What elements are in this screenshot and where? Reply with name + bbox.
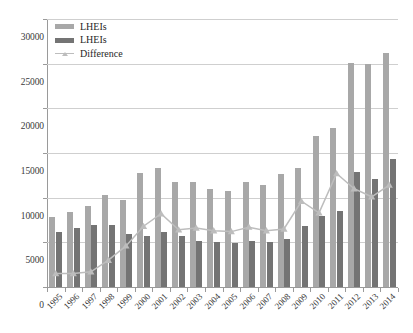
x-tick xyxy=(363,288,364,292)
legend-item-label: Difference xyxy=(80,49,123,59)
y-axis-tick-label: 20000 xyxy=(0,123,44,133)
x-tick xyxy=(240,288,241,292)
bar xyxy=(214,242,220,287)
bar xyxy=(383,53,389,287)
legend-item[interactable]: LHEIs xyxy=(55,35,123,46)
bar xyxy=(243,182,249,287)
x-tick xyxy=(398,288,399,292)
x-tick xyxy=(380,288,381,292)
x-tick xyxy=(187,288,188,292)
x-tick xyxy=(65,288,66,292)
bar xyxy=(196,241,202,287)
bar xyxy=(260,185,266,287)
x-tick xyxy=(310,288,311,292)
bar xyxy=(155,168,161,287)
x-tick xyxy=(258,288,259,292)
bar xyxy=(267,242,273,287)
x-tick xyxy=(152,288,153,292)
legend-color-swatch xyxy=(55,38,74,43)
x-tick xyxy=(293,288,294,292)
y-axis-tick-label: 25000 xyxy=(0,78,44,88)
legend-item[interactable]: LHEIs xyxy=(55,21,123,32)
bar xyxy=(232,243,238,287)
bar xyxy=(365,64,371,287)
bar xyxy=(137,173,143,287)
bar xyxy=(179,236,185,287)
bar xyxy=(249,241,255,287)
bar xyxy=(319,216,325,287)
bar xyxy=(67,212,73,287)
x-tick xyxy=(345,288,346,292)
legend-item[interactable]: Difference xyxy=(55,48,123,59)
y-axis-tick-label: 30000 xyxy=(0,33,44,43)
bar xyxy=(348,63,354,287)
x-tick xyxy=(275,288,276,292)
bar xyxy=(144,236,150,287)
x-tick xyxy=(47,288,48,292)
bar xyxy=(354,172,360,287)
legend-item-label: LHEIs xyxy=(80,35,107,45)
legend-line-marker-icon xyxy=(55,51,74,56)
bar xyxy=(126,234,132,287)
bar xyxy=(390,159,396,287)
x-tick xyxy=(328,288,329,292)
x-tick xyxy=(100,288,101,292)
legend-color-swatch xyxy=(55,24,74,29)
bar xyxy=(207,189,213,287)
bar xyxy=(190,182,196,287)
y-axis-tick-label: 15000 xyxy=(0,167,44,177)
bar xyxy=(172,182,178,287)
x-tick xyxy=(117,288,118,292)
bar xyxy=(284,239,290,287)
bar xyxy=(102,195,108,287)
x-tick xyxy=(135,288,136,292)
bar xyxy=(313,136,319,287)
bar xyxy=(295,168,301,287)
bar xyxy=(225,191,231,287)
chart-legend: LHEIsLHEIsDifference xyxy=(55,21,123,62)
legend-item-label: LHEIs xyxy=(80,22,107,32)
x-tick xyxy=(223,288,224,292)
bar xyxy=(302,226,308,287)
y-axis-tick-label: 5000 xyxy=(0,257,44,267)
bar xyxy=(278,174,284,287)
bar xyxy=(109,225,115,287)
bar xyxy=(372,179,378,287)
bar xyxy=(85,206,91,287)
y-axis-tick-label: 0 xyxy=(0,301,44,311)
chart-container: 050001000015000200002500030000 199519961… xyxy=(0,0,413,333)
bar xyxy=(49,217,55,287)
bar xyxy=(337,211,343,287)
bar xyxy=(161,232,167,287)
bar xyxy=(120,200,126,287)
y-axis-tick-label: 10000 xyxy=(0,212,44,222)
x-tick xyxy=(205,288,206,292)
x-tick xyxy=(82,288,83,292)
bar xyxy=(91,225,97,287)
bar xyxy=(56,232,62,287)
bar xyxy=(330,128,336,287)
bar xyxy=(74,228,80,287)
x-tick xyxy=(170,288,171,292)
